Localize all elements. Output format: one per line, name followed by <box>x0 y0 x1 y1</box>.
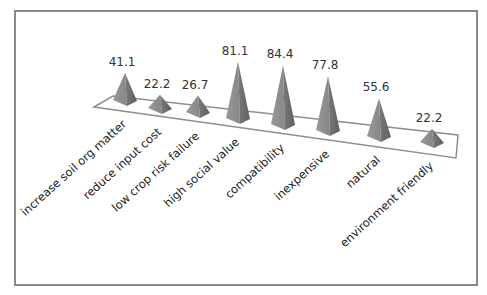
value-label: 84.4 <box>267 47 294 61</box>
value-label: 41.1 <box>109 55 136 69</box>
value-label: 77.8 <box>312 58 339 72</box>
pyramid-bar <box>226 62 250 124</box>
value-label: 22.2 <box>144 77 171 91</box>
value-label: 81.1 <box>222 44 249 58</box>
pyramid-bar <box>113 73 137 106</box>
category-label: natural <box>343 153 383 191</box>
pyramid-chart: 41.122.226.781.184.477.855.622.2 increas… <box>0 0 487 295</box>
value-label: 26.7 <box>182 78 209 92</box>
pyramid-bar <box>367 98 391 142</box>
category-label: reduce input cost <box>80 125 164 203</box>
pyramid-bar <box>271 65 295 130</box>
pyramid-bar <box>316 76 340 136</box>
value-label: 22.2 <box>416 111 443 125</box>
value-label: 55.6 <box>363 80 390 94</box>
